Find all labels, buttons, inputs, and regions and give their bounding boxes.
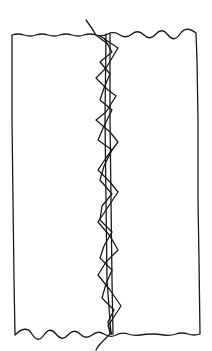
stitch-illustration [0,0,212,351]
thread-tail-bottom [96,334,110,350]
seam-diagram [0,0,212,351]
zigzag-stitch-a [96,36,121,334]
